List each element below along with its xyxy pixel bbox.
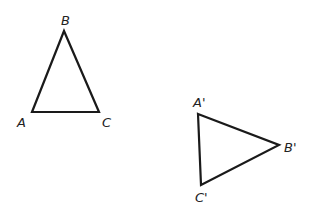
vertex-label-b-prime: B' — [284, 140, 297, 155]
diagram-canvas: B A C A' B' C' — [0, 0, 312, 214]
vertex-label-a: A — [16, 115, 26, 130]
triangle-abc — [32, 31, 99, 112]
vertex-label-a-prime: A' — [192, 95, 205, 110]
vertex-label-c-prime: C' — [195, 190, 208, 205]
vertex-label-b: B — [61, 13, 70, 28]
vertex-label-c: C — [102, 115, 112, 130]
triangle-a-prime-b-prime-c-prime — [198, 114, 279, 185]
